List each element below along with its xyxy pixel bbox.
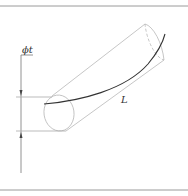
cylinder-top-edge <box>52 24 145 96</box>
cylinder-diagram: ϕt L <box>0 0 188 196</box>
cylinder-bottom-edge <box>66 60 164 131</box>
length-label: L <box>120 94 128 105</box>
helix-curve <box>44 34 165 104</box>
diameter-label: ϕt <box>22 44 34 55</box>
arrow-up-icon <box>20 132 23 138</box>
arrow-down-icon <box>20 90 23 96</box>
